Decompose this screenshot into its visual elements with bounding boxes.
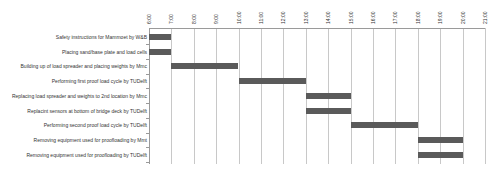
y-tick: [146, 147, 149, 148]
x-tick-label: 16:00: [370, 11, 376, 24]
x-tick-label: 14:00: [325, 11, 331, 24]
x-tick-label: 17:00: [392, 11, 398, 24]
gridline: [194, 28, 195, 164]
x-tick-label: 6:00: [146, 14, 152, 24]
y-tick: [146, 59, 149, 60]
x-tick-label: 12:00: [280, 11, 286, 24]
gridline: [440, 28, 441, 164]
y-tick: [146, 133, 149, 134]
x-tick-label: 8:00: [191, 14, 197, 24]
gridline: [351, 28, 352, 164]
gantt-chart: 6:007:008:009:0010:0011:0012:0013:0014:0…: [0, 0, 495, 174]
task-bar: [239, 78, 306, 84]
x-tick-label: 10:00: [236, 11, 242, 24]
task-bar: [306, 93, 351, 99]
gridline: [283, 28, 284, 164]
x-tick-label: 15:00: [348, 11, 354, 24]
x-tick-label: 19:00: [437, 11, 443, 24]
task-label: Safety instructions for Mammoet by W&B: [56, 34, 147, 40]
gridline: [216, 28, 217, 164]
gridline: [239, 28, 240, 164]
x-tick-label: 9:00: [213, 14, 219, 24]
gridline: [418, 28, 419, 164]
task-label: Performing first proof load cycle by TUD…: [52, 78, 147, 84]
y-tick: [146, 162, 149, 163]
gridline: [171, 28, 172, 164]
task-label: Building up of load spreader and placing…: [21, 63, 147, 69]
y-tick: [146, 118, 149, 119]
task-label: Removing equipment used for proofloading…: [26, 152, 147, 158]
gridline: [485, 28, 486, 164]
y-tick: [146, 88, 149, 89]
y-tick: [146, 74, 149, 75]
gridline: [261, 28, 262, 164]
x-tick-label: 11:00: [258, 12, 264, 24]
y-tick: [146, 103, 149, 104]
gridline: [373, 28, 374, 164]
task-bar: [306, 108, 351, 114]
gridline: [395, 28, 396, 164]
task-label: Replacing load spreader and weights to 2…: [12, 93, 147, 99]
task-bar: [418, 137, 463, 143]
task-label: Replacint sensors at bottom of bridge de…: [27, 108, 147, 114]
task-label: Performing second proof load cycle by TU…: [44, 122, 147, 128]
task-bar: [149, 34, 171, 40]
gridline: [463, 28, 464, 164]
x-tick-label: 21:00: [482, 11, 488, 24]
y-tick: [146, 44, 149, 45]
task-bar: [351, 122, 418, 128]
x-tick-label: 20:00: [460, 11, 466, 24]
x-tick-label: 18:00: [415, 11, 421, 24]
task-bar: [418, 152, 463, 158]
x-axis-line: [149, 28, 485, 29]
task-bar: [171, 63, 238, 69]
task-label: Removing equipment used for proofloading…: [34, 137, 147, 143]
x-tick-label: 7:00: [168, 14, 174, 24]
x-tick-label: 13:00: [303, 11, 309, 24]
task-label: Placing sand/base plate and load cells: [62, 49, 147, 55]
task-bar: [149, 49, 171, 55]
